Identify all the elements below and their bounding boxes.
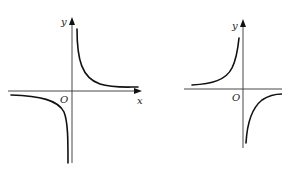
right-y-axis-arrow-icon [240,19,246,27]
left-graph: y x O [8,16,143,163]
right-graph: y O [184,19,282,148]
right-origin-label: O [232,92,240,103]
right-y-axis-label: y [231,20,238,31]
left-curve-quadrant-1 [77,29,138,87]
right-curve-quadrant-2 [192,38,239,85]
left-x-axis-arrow-icon [134,88,142,94]
left-y-axis-label: y [60,16,67,27]
hyperbola-graphs-figure: y x O y O [0,0,282,184]
left-curve-quadrant-3 [11,95,68,163]
left-origin-label: O [60,94,68,105]
left-y-axis-arrow-icon [69,17,75,25]
right-curve-quadrant-4 [246,94,282,143]
left-x-axis-label: x [137,95,143,106]
